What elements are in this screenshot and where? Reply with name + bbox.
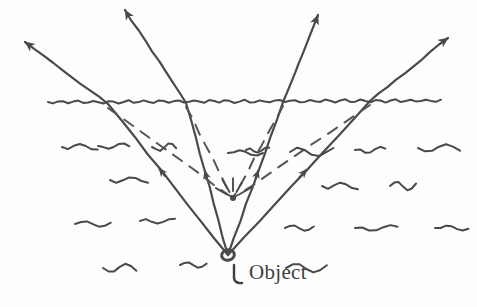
water-ripple xyxy=(355,225,398,230)
water-ripple xyxy=(98,144,129,149)
ray-1-direction-arrow xyxy=(159,168,166,176)
object-pointer-hook xyxy=(234,265,242,283)
ray-4-direction-arrow xyxy=(299,170,307,179)
water-ripple xyxy=(435,226,468,231)
refraction-diagram: Object xyxy=(0,0,477,307)
water-ripple-group xyxy=(62,144,468,273)
water-ripple xyxy=(180,262,207,267)
water-ripple xyxy=(285,226,314,231)
ray-3-direction-arrow xyxy=(256,170,259,178)
virtual-image-dot xyxy=(230,195,236,201)
dashed-ray-1 xyxy=(108,108,233,198)
water-ripple xyxy=(103,264,136,272)
water-ripple xyxy=(322,183,358,190)
virtual-image-sparkle xyxy=(216,188,227,194)
water-ripple xyxy=(110,178,148,183)
object-label-pointer xyxy=(234,265,242,283)
virtual-image-sparkle xyxy=(237,183,242,192)
ray-3 xyxy=(228,15,318,255)
water-ripple xyxy=(152,144,176,151)
light-ray-group xyxy=(25,10,448,255)
water-ripple xyxy=(62,144,98,150)
water-ripple xyxy=(355,147,385,153)
virtual-image-sparkle xyxy=(223,180,230,192)
water-ripple xyxy=(390,182,416,190)
object-label: Object xyxy=(249,262,307,283)
water-ripple xyxy=(140,219,175,224)
water-ripple xyxy=(418,144,460,151)
water-ripple xyxy=(75,221,111,226)
diagram-canvas xyxy=(0,0,477,307)
